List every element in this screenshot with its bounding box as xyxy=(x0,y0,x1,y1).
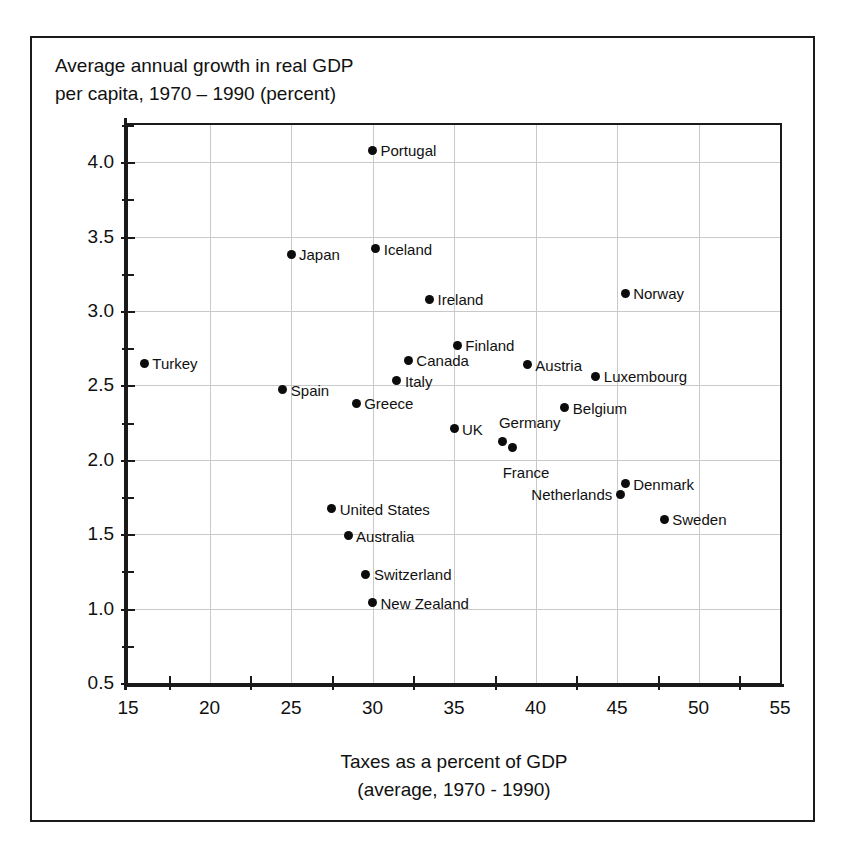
data-point-label: Netherlands xyxy=(531,486,612,503)
y-axis-minor-tick xyxy=(122,423,134,425)
y-axis-tick xyxy=(121,162,135,164)
data-point-label: France xyxy=(503,463,550,480)
y-axis-tick-label: 1.0 xyxy=(88,598,114,620)
x-axis-tick-label: 40 xyxy=(525,697,546,719)
y-axis-minor-tick xyxy=(122,497,134,499)
x-axis-minor-tick xyxy=(739,676,741,690)
gridline-horizontal xyxy=(128,237,780,238)
gridline-horizontal xyxy=(128,385,780,386)
data-point[interactable] xyxy=(287,250,296,259)
data-point[interactable] xyxy=(560,403,569,412)
x-axis-tick-label: 55 xyxy=(769,697,790,719)
data-point[interactable] xyxy=(327,504,336,513)
y-axis-tick-label: 3.0 xyxy=(88,300,114,322)
y-axis-tick-label: 0.5 xyxy=(88,672,114,694)
data-point-label: Greece xyxy=(364,395,413,412)
y-axis-tick xyxy=(121,237,135,239)
y-axis-tick-label: 4.0 xyxy=(88,151,114,173)
plot-area: 0.51.01.52.02.53.03.54.0 152025303540455… xyxy=(126,123,782,685)
data-point-label: Belgium xyxy=(573,399,627,416)
x-axis-minor-tick xyxy=(169,676,171,690)
data-point-label: Australia xyxy=(356,527,414,544)
data-point[interactable] xyxy=(361,570,370,579)
chart-title: Average annual growth in real GDP per ca… xyxy=(55,52,615,107)
data-point[interactable] xyxy=(621,289,630,298)
data-point[interactable] xyxy=(621,479,630,488)
x-axis-minor-tick xyxy=(495,676,497,690)
data-point-label: New Zealand xyxy=(381,594,469,611)
data-point-label: Turkey xyxy=(152,355,197,372)
data-point-label: Finland xyxy=(465,337,514,354)
y-axis-tick xyxy=(121,385,135,387)
gridline-horizontal xyxy=(128,460,780,461)
gridline-vertical xyxy=(536,125,537,683)
data-point[interactable] xyxy=(453,341,462,350)
data-point[interactable] xyxy=(344,531,353,540)
x-axis-caption: Taxes as a percent of GDP (average, 1970… xyxy=(126,748,782,803)
data-point[interactable] xyxy=(425,295,434,304)
gridline-horizontal xyxy=(128,534,780,535)
x-axis-tick-label: 45 xyxy=(606,697,627,719)
y-axis-tick-label: 3.5 xyxy=(88,226,114,248)
x-axis-tick-label: 35 xyxy=(443,697,464,719)
y-axis-minor-tick xyxy=(122,646,134,648)
data-point-label: Austria xyxy=(535,356,582,373)
data-point[interactable] xyxy=(591,372,600,381)
x-axis-minor-tick xyxy=(250,676,252,690)
y-axis-tick-label: 2.5 xyxy=(88,374,114,396)
y-axis-tick xyxy=(121,609,135,611)
gridline-horizontal xyxy=(128,162,780,163)
data-point[interactable] xyxy=(392,376,401,385)
data-point[interactable] xyxy=(140,359,149,368)
data-point-label: Iceland xyxy=(384,240,432,257)
x-axis-minor-tick xyxy=(576,676,578,690)
data-point-label: Switzerland xyxy=(374,566,452,583)
data-point-label: Sweden xyxy=(672,511,726,528)
data-point[interactable] xyxy=(278,385,287,394)
data-point[interactable] xyxy=(371,244,380,253)
data-point[interactable] xyxy=(616,490,625,499)
y-axis-tick xyxy=(121,311,135,313)
data-point-label: Japan xyxy=(299,246,340,263)
data-point-label: Canada xyxy=(416,352,469,369)
data-point-label: UK xyxy=(462,420,483,437)
data-point-label: Spain xyxy=(291,381,329,398)
data-point[interactable] xyxy=(368,598,377,607)
y-axis-minor-tick xyxy=(122,571,134,573)
gridline-vertical xyxy=(291,125,292,683)
chart-figure: Average annual growth in real GDP per ca… xyxy=(0,0,847,855)
y-axis-minor-tick xyxy=(122,199,134,201)
x-axis-tick-label: 20 xyxy=(199,697,220,719)
gridline-vertical xyxy=(699,125,700,683)
y-axis-tick-label: 1.5 xyxy=(88,523,114,545)
x-axis-tick-label: 25 xyxy=(280,697,301,719)
data-point[interactable] xyxy=(508,443,517,452)
x-axis-tick-label: 30 xyxy=(362,697,383,719)
data-point[interactable] xyxy=(523,360,532,369)
x-axis-minor-tick xyxy=(413,676,415,690)
y-axis-minor-tick xyxy=(122,348,134,350)
gridline-vertical xyxy=(210,125,211,683)
x-axis-tick-label: 15 xyxy=(117,697,138,719)
data-point[interactable] xyxy=(498,437,507,446)
y-axis-tick xyxy=(121,534,135,536)
y-axis-tick-label: 2.0 xyxy=(88,449,114,471)
data-point[interactable] xyxy=(450,424,459,433)
data-point[interactable] xyxy=(352,399,361,408)
x-axis-minor-tick xyxy=(332,676,334,690)
y-axis-tick xyxy=(121,683,135,685)
x-axis-tick-label: 50 xyxy=(688,697,709,719)
data-point-label: United States xyxy=(340,500,430,517)
data-point-label: Italy xyxy=(405,372,433,389)
data-point-label: Portugal xyxy=(381,142,437,159)
data-point[interactable] xyxy=(660,515,669,524)
data-point[interactable] xyxy=(368,146,377,155)
data-point-label: Norway xyxy=(633,285,684,302)
data-point-label: Germany xyxy=(499,413,561,430)
data-point-label: Denmark xyxy=(633,475,694,492)
data-point-label: Ireland xyxy=(438,291,484,308)
y-axis-tick xyxy=(121,460,135,462)
y-axis-minor-tick xyxy=(122,274,134,276)
data-point-label: Luxembourg xyxy=(604,368,687,385)
data-point[interactable] xyxy=(404,356,413,365)
